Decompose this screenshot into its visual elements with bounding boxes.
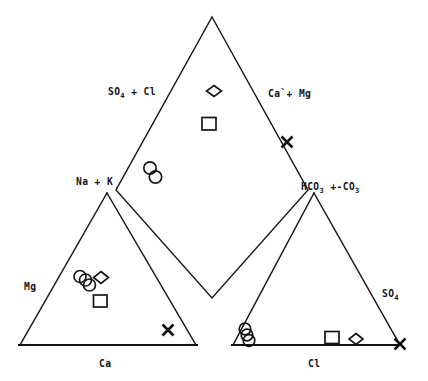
anion-triangle-panel <box>232 193 401 345</box>
data-marker-square <box>94 295 108 307</box>
data-marker-diamond <box>207 86 222 97</box>
data-marker-diamond <box>94 272 109 284</box>
axis-label-so4-cl: SO4 + Cl <box>108 86 156 100</box>
data-marker-circle <box>149 171 161 183</box>
axis-label-na-k: Na + K <box>76 176 113 187</box>
anion-triangle-left-axis <box>233 193 314 345</box>
anion-triangle-right-axis <box>314 193 400 345</box>
cation-triangle-panel <box>19 193 197 345</box>
data-marker-circle <box>144 162 156 174</box>
axis-label-hco3-co3: HCO3 +-CO3 <box>301 181 360 195</box>
data-marker-cross <box>282 137 293 148</box>
data-marker-square <box>325 332 339 344</box>
axis-label-ca: Ca <box>99 358 111 369</box>
axis-labels: SO4 + Cl Ca`+ Mg Na + K HCO3 +-CO3 Mg Ca… <box>24 86 399 369</box>
data-marker-cross <box>163 325 174 336</box>
axis-label-so4: SO4 <box>382 288 399 302</box>
piper-diagram-canvas: SO4 + Cl Ca`+ Mg Na + K HCO3 +-CO3 Mg Ca… <box>0 0 428 381</box>
diamond-field-outline <box>116 17 308 298</box>
axis-label-cl: Cl <box>308 358 320 369</box>
axis-label-ca-mg: Ca`+ Mg <box>268 88 311 99</box>
cation-triangle-right-axis <box>107 193 196 345</box>
diamond-field-panel <box>116 17 308 298</box>
piper-diagram: SO4 + Cl Ca`+ Mg Na + K HCO3 +-CO3 Mg Ca… <box>0 0 428 381</box>
data-marker-square <box>202 118 216 131</box>
axis-label-mg: Mg <box>24 281 36 292</box>
data-marker-diamond <box>349 334 363 345</box>
cation-triangle-left-axis <box>20 193 107 345</box>
